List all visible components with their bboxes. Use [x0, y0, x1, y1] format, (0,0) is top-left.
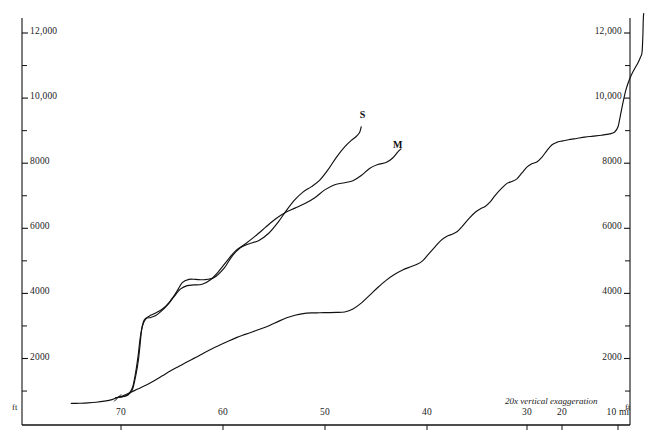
- x-axis-tick-label-40: 40: [397, 407, 457, 417]
- curve-main-profile: [71, 13, 643, 403]
- profile-plot: [0, 0, 650, 439]
- y-axis-right-label-6000: 6000: [0, 221, 622, 231]
- y-axis-right-label-4000: 4000: [0, 286, 622, 296]
- y-axis-left-unit: ft: [12, 402, 18, 412]
- x-axis-tick-label-20: 20: [532, 407, 592, 417]
- y-axis-right-label-10000: 10,000: [0, 91, 622, 101]
- curves-group: [71, 13, 643, 403]
- y-axis-right-label-8000: 8000: [0, 156, 622, 166]
- vertical-exaggeration-note: 20x vertical exaggeration: [505, 396, 597, 406]
- chart-figure: 12,000 10,000 8000 6000 4000 2000 12,000…: [0, 0, 650, 439]
- curve-label-m: M: [393, 139, 402, 150]
- x-axis-tick-label-70: 70: [91, 407, 151, 417]
- x-axis-tick-label-60: 60: [193, 407, 253, 417]
- x-axis-tick-label-10: 10 mi: [588, 407, 648, 417]
- y-axis-right-label-12000: 12,000: [0, 26, 622, 36]
- x-axis-tick-label-50: 50: [295, 407, 355, 417]
- curve-label-s: S: [360, 109, 366, 120]
- y-axis-right-label-2000: 2000: [0, 352, 622, 362]
